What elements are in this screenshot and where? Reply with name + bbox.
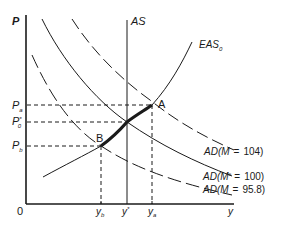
ad-low-label: AD(M=95.8) — [202, 184, 265, 195]
ystar-label: y* — [121, 206, 130, 217]
ad-as-diagram: P Pa P*0 Pb 0 yb y* ya y AS EAS0 AD(M=10… — [0, 0, 283, 225]
point-b-label: B — [96, 132, 103, 144]
pb-label: Pb — [12, 139, 23, 153]
eas-curve — [43, 42, 192, 177]
pa-label: Pa — [12, 99, 23, 113]
origin-label: 0 — [17, 205, 23, 217]
yb-label: yb — [95, 206, 105, 218]
eas-label: EAS0 — [199, 39, 223, 52]
pstar-label: P*0 — [12, 115, 22, 129]
ad-high-label: AD(M=104) — [203, 146, 263, 157]
guide-lines — [27, 105, 152, 204]
x-axis-label: y — [227, 206, 234, 217]
ad-mid-label: AD(Me=100) — [202, 171, 264, 182]
point-a-label: A — [158, 98, 166, 110]
as-label: AS — [130, 15, 146, 27]
ya-label: ya — [147, 206, 157, 218]
y-axis-label: P — [12, 15, 20, 27]
